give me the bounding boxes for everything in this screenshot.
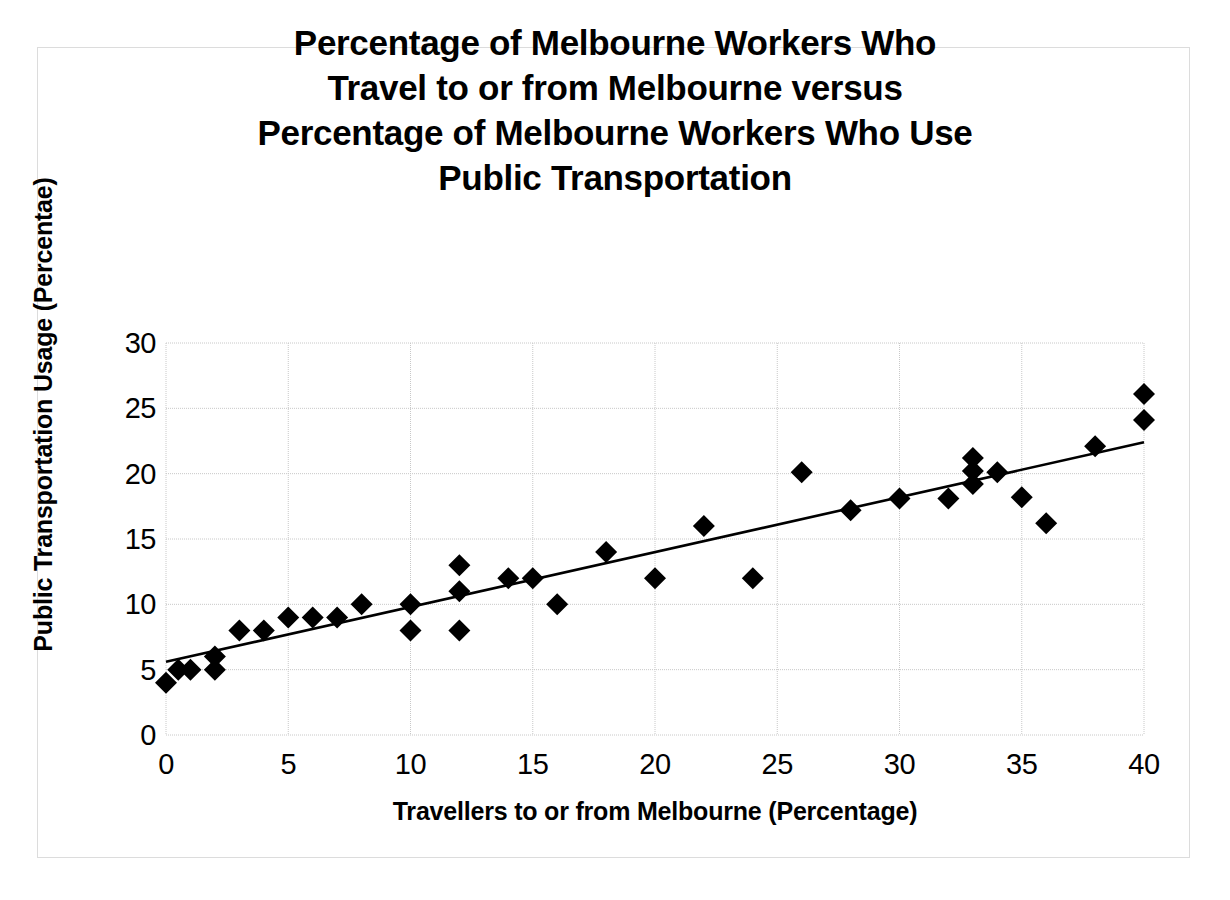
data-point: [644, 567, 666, 589]
data-point: [1011, 486, 1033, 508]
x-tick-label: 35: [982, 748, 1062, 781]
x-axis-title: Travellers to or from Melbourne (Percent…: [166, 797, 1144, 826]
data-point: [302, 606, 324, 628]
data-point: [277, 606, 299, 628]
data-point: [228, 619, 250, 641]
data-point: [693, 515, 715, 537]
y-tick-label: 15: [92, 523, 156, 556]
x-tick-label: 25: [737, 748, 817, 781]
x-tick-label: 20: [615, 748, 695, 781]
data-point: [448, 619, 470, 641]
x-tick-label: 40: [1104, 748, 1184, 781]
data-point: [400, 619, 422, 641]
data-point: [889, 487, 911, 509]
gridlines: [166, 343, 1144, 735]
data-point: [400, 593, 422, 615]
data-point: [522, 567, 544, 589]
data-point: [986, 461, 1008, 483]
scatter-plot-svg: [166, 343, 1144, 735]
data-point: [840, 499, 862, 521]
y-axis-title: Public Transportation Usage (Percentae): [29, 75, 58, 755]
x-axis-tick-labels: 0510152025303540: [0, 748, 1230, 788]
y-tick-label: 5: [92, 653, 156, 686]
data-point: [351, 593, 373, 615]
x-tick-label: 15: [493, 748, 573, 781]
y-tick-label: 30: [92, 327, 156, 360]
data-point: [962, 473, 984, 495]
data-point: [791, 461, 813, 483]
y-tick-label: 0: [92, 719, 156, 752]
data-point: [595, 541, 617, 563]
x-tick-label: 10: [371, 748, 451, 781]
x-tick-label: 0: [126, 748, 206, 781]
data-point: [1035, 512, 1057, 534]
y-tick-label: 10: [92, 588, 156, 621]
data-point: [204, 659, 226, 681]
data-point: [937, 487, 959, 509]
data-point: [546, 593, 568, 615]
x-tick-label: 5: [248, 748, 328, 781]
data-point: [179, 659, 201, 681]
y-tick-label: 20: [92, 457, 156, 490]
data-point: [448, 554, 470, 576]
data-point: [742, 567, 764, 589]
y-tick-label: 25: [92, 392, 156, 425]
chart-title: Percentage of Melbourne Workers Who Trav…: [0, 20, 1230, 201]
plot-area: [166, 343, 1144, 735]
x-tick-label: 30: [860, 748, 940, 781]
